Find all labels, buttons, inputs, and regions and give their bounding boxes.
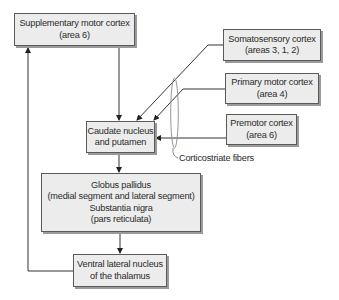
node-sublabel: and putamen xyxy=(95,137,146,149)
arrow-ventral-to-supplementary xyxy=(28,48,73,271)
node-premotor-cortex: Premotor cortex (area 6) xyxy=(226,114,297,145)
node-globus-pallidus-substantia-nigra: Globus pallidus (medial segment and late… xyxy=(41,173,201,232)
node-somatosensory-cortex: Somatosensory cortex (areas 3, 1, 2) xyxy=(223,29,321,61)
node-sublabel: (area 6) xyxy=(59,30,90,42)
node-sublabel: (medial segment and lateral segment) xyxy=(47,191,194,203)
node-label: Somatosensory cortex xyxy=(228,34,315,46)
node-label-secondary: Substantia nigra xyxy=(89,203,152,215)
node-label: Supplementary motor cortex xyxy=(19,18,129,30)
arrow-somatosensory-to-caudate xyxy=(137,45,223,120)
node-label: Globus pallidus xyxy=(91,180,151,192)
node-sublabel: (areas 3, 1, 2) xyxy=(245,45,299,57)
node-primary-motor-cortex: Primary motor cortex (area 4) xyxy=(225,73,319,104)
node-sublabel-secondary: (pars reticulata) xyxy=(91,214,151,226)
node-sublabel: (area 4) xyxy=(257,89,288,101)
node-sublabel: of the thalamus xyxy=(90,271,150,283)
node-sublabel: (area 6) xyxy=(246,130,277,142)
node-caudate-putamen: Caudate nucleus and putamen xyxy=(86,121,155,153)
arrow-primary-motor-to-caudate xyxy=(154,89,225,120)
corticostriate-fibers-label: Corticostriate fibers xyxy=(179,153,254,163)
node-label: Ventral lateral nucleus xyxy=(77,259,163,271)
node-ventral-lateral-thalamus: Ventral lateral nucleus of the thalamus xyxy=(73,254,167,287)
node-label: Caudate nucleus xyxy=(88,126,154,138)
corticostriate-leader-line xyxy=(173,148,178,158)
node-label: Premotor cortex xyxy=(230,118,292,130)
node-supplementary-motor-cortex: Supplementary motor cortex (area 6) xyxy=(14,13,135,46)
node-label: Primary motor cortex xyxy=(231,77,312,89)
diagram-canvas: Supplementary motor cortex (area 6) Soma… xyxy=(0,0,339,300)
